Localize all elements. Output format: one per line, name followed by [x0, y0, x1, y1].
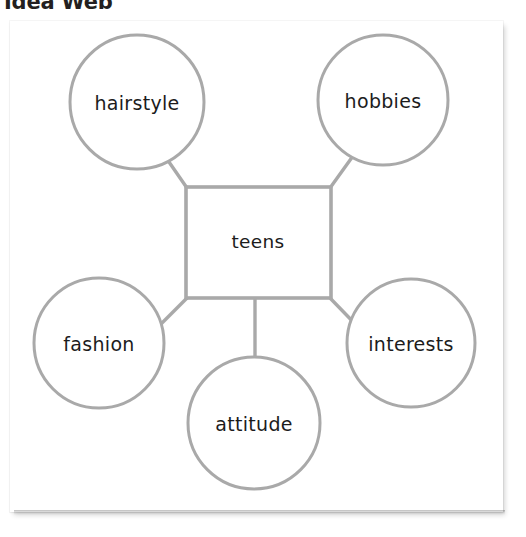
page-root: Idea Web hairstyle hobbies fash: [0, 0, 526, 537]
node-label-attitude: attitude: [215, 413, 292, 435]
page-title: Idea Web: [4, 0, 113, 13]
node-label-hobbies: hobbies: [345, 90, 422, 112]
node-label-hairstyle: hairstyle: [94, 92, 179, 114]
idea-web-diagram: hairstyle hobbies fashion interests atti…: [10, 21, 503, 512]
node-label-interests: interests: [368, 333, 454, 355]
node-label-fashion: fashion: [63, 333, 134, 355]
node-label-teens: teens: [232, 231, 285, 252]
